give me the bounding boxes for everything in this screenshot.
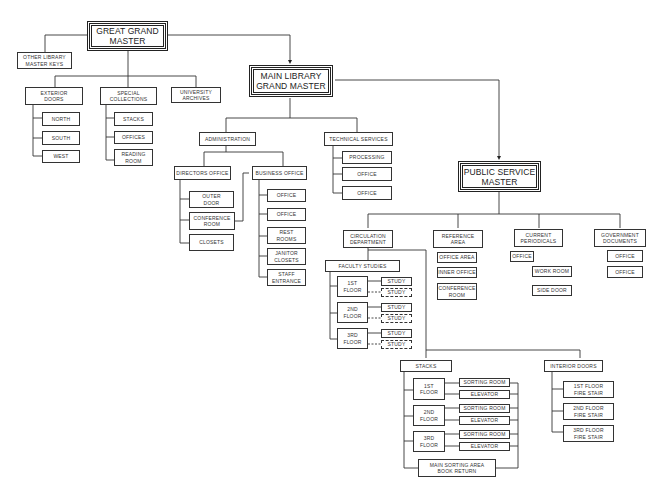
stacks-node: STACKS (400, 360, 452, 372)
outer-door-node: OUTER DOOR (189, 191, 234, 208)
exterior-doors-node: EXTERIOR DOORS (25, 87, 83, 105)
conference-room-ref-node: CONFERENCE ROOM (437, 283, 477, 300)
business-office-node: BUSINESS OFFICE (252, 166, 307, 180)
elevator-node: ELEVATOR (459, 442, 510, 451)
closets-node: CLOSETS (189, 234, 234, 251)
sorting-room-node: SORTING ROOM (459, 378, 510, 387)
circulation-department-node: CIRCULATION DEPARTMENT (343, 230, 393, 248)
technical-services-node: TECHNICAL SERVICES (324, 132, 393, 146)
fs-1st-floor-node: 1st FLOOR (337, 276, 368, 297)
current-periodicals-node: CURRENT PERIODICALS (514, 229, 563, 247)
government-documents-node: GOVERNMENT DOCUMENTS (594, 229, 646, 247)
study-node: STUDY (381, 277, 412, 286)
south-node: SOUTH (42, 131, 80, 145)
bo-office-1-node: OFFICE (267, 189, 306, 202)
main-library-grand-master-node: MAIN LIBRARY GRAND MASTER (249, 65, 333, 97)
elevator-node: ELEVATOR (459, 416, 510, 425)
faculty-studies-node: FACULTY STUDIES (325, 260, 400, 272)
cp-office-node: OFFICE (510, 251, 534, 262)
other-library-master-keys-node: OTHER LIBRARY MASTER KEYS (17, 52, 72, 69)
fire-stair-1-node: 1st FLOOR FIRE STAIR (563, 381, 614, 398)
work-room-node: WORK ROOM (532, 266, 572, 277)
north-node: NORTH (42, 112, 80, 126)
study-node-dashed: STUDY (381, 314, 412, 323)
study-node-dashed: STUDY (381, 288, 412, 297)
janitor-closets-node: JANITOR CLOSETS (267, 248, 306, 265)
sorting-room-node: SORTING ROOM (459, 404, 510, 413)
west-node: WEST (42, 150, 80, 163)
public-service-master-node: PUBLIC SERVICE MASTER (458, 161, 541, 192)
offices-sc-node: OFFICES (114, 131, 153, 144)
inner-office-node: INNER OFFICE (437, 267, 477, 278)
st-1st-floor-node: 1st FLOOR (413, 378, 445, 400)
gd-office-1-node: OFFICE (607, 250, 643, 262)
fs-3rd-floor-node: 3rd FLOOR (337, 328, 368, 349)
fire-stair-2-node: 2nd FLOOR FIRE STAIR (563, 403, 614, 420)
special-collections-node: SPECIAL COLLECTIONS (100, 87, 157, 105)
side-door-node: SIDE DOOR (532, 285, 572, 296)
gd-office-2-node: OFFICE (607, 266, 643, 278)
study-node: STUDY (381, 303, 412, 312)
great-grand-master-node: GREAT GRAND MASTER (87, 21, 168, 51)
st-3rd-floor-node: 3rd FLOOR (413, 431, 445, 452)
office-area-node: OFFICE AREA (437, 252, 477, 263)
stacks-sc-node: STACKS (114, 112, 153, 126)
directors-office-node: DIRECTORS OFFICE (174, 166, 231, 180)
ts-office-2-node: OFFICE (342, 186, 392, 200)
sorting-room-node: SORTING ROOM (459, 430, 510, 439)
st-2nd-floor-node: 2nd FLOOR (413, 405, 445, 426)
interior-doors-node: INTERIOR DOORS (544, 360, 603, 372)
fire-stair-3-node: 3rd FLOOR FIRE STAIR (563, 425, 614, 442)
main-sorting-area-node: MAIN SORTING AREA BOOK RETURN (418, 459, 496, 477)
staff-entrance-node: STAFF ENTRANCE (267, 269, 306, 286)
rest-rooms-node: REST ROOMS (267, 227, 306, 244)
university-archives-node: UNIVERSITY ARCHIVES (171, 87, 221, 103)
ts-office-1-node: OFFICE (342, 167, 392, 181)
processing-node: PROCESSING (342, 151, 392, 164)
study-node: STUDY (381, 329, 412, 338)
bo-office-2-node: OFFICE (267, 208, 306, 221)
reading-room-node: READING ROOM (114, 149, 153, 166)
elevator-node: ELEVATOR (459, 390, 510, 399)
conference-room-admin-node: CONFERENCE ROOM (189, 212, 235, 230)
reference-area-node: REFERENCE AREA (433, 230, 483, 248)
fs-2nd-floor-node: 2nd FLOOR (337, 302, 368, 323)
administration-node: ADMINISTRATION (199, 132, 256, 146)
study-node-dashed: STUDY (381, 340, 412, 349)
